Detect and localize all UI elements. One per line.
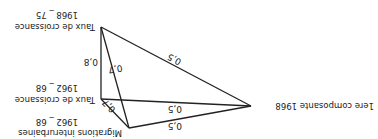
node-label-line2: 1968 _ 75 (36, 10, 78, 20)
edge-migrations-component (129, 106, 251, 128)
node-growth-1962-68: Taux de croissance 1962 _ 68 (15, 83, 96, 105)
edge-value-growth6268-component: 0,5 (168, 104, 182, 114)
node-migrations-1962-68: 1962 _ 68 Migrations interurbaines (18, 117, 122, 138)
node-label-line1: Migrations interurbaines (18, 128, 122, 138)
node-first-component-1968: 1ere composante 1968 (275, 101, 374, 111)
node-label-line2: 1962 _ 68 (36, 117, 78, 127)
edge-value-migrations-component: 0,5 (168, 121, 182, 131)
edge-value-growth6875-migrations: 0,7 (108, 63, 124, 75)
edge-value-growth6875-component: 0,5 (166, 52, 183, 68)
node-label-line1: Taux de croissance (15, 22, 96, 32)
path-diagram: 0,8 0,7 0,5 0,5 0,7 0,5 Taux de croissan… (0, 0, 378, 139)
diagram-svg: 0,8 0,7 0,5 0,5 0,7 0,5 Taux de croissan… (0, 0, 378, 139)
edge-value-growth6875-growth6268: 0,8 (83, 57, 98, 67)
node-growth-1968-75: Taux de croissance 1968 _ 75 (15, 10, 96, 32)
node-label-line1: Taux de croissance (15, 95, 96, 105)
node-label-line2: 1962 _ 68 (36, 83, 78, 93)
node-label: 1ere composante 1968 (275, 101, 374, 111)
